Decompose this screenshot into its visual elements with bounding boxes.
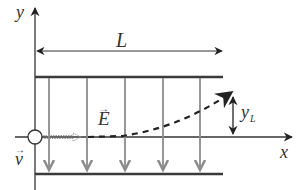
y-axis-label-text: y xyxy=(16,2,24,22)
electric-field-lines xyxy=(49,78,200,170)
vector-arrow-icon: → xyxy=(15,145,23,155)
deflection-subscript: L xyxy=(250,113,256,124)
plate-length-label: L xyxy=(116,30,127,50)
deflection-label: yL xyxy=(241,103,256,124)
x-axis-label: x xyxy=(280,143,288,161)
plate-length-label-text: L xyxy=(116,29,127,51)
deflection-diagram xyxy=(0,0,299,190)
x-axis-label-text: x xyxy=(280,142,288,162)
particle xyxy=(28,130,42,144)
deflection-label-text: y xyxy=(241,102,249,122)
field-label: → E xyxy=(98,109,110,128)
velocity-label: → v xyxy=(15,150,23,168)
y-axis-label: y xyxy=(16,3,24,21)
vector-arrow-icon: → xyxy=(98,104,110,114)
